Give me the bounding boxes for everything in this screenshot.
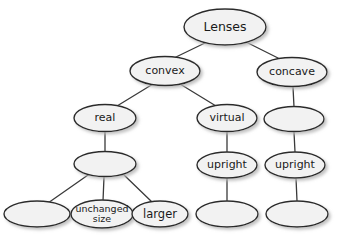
node-concave[interactable]: concave (257, 58, 327, 87)
node-real-blank-1[interactable] (74, 152, 136, 177)
edge-upright-concave-to-concave-blank-2 (296, 178, 297, 201)
node-layer: Lensesconvexconcaverealvirtualuprightupr… (4, 9, 328, 228)
edge-lenses-to-concave (246, 42, 278, 58)
lenses-concept-map: Lensesconvexconcaverealvirtualuprightupr… (0, 0, 340, 237)
edge-convex-to-virtual (180, 84, 216, 106)
node-ellipse (196, 201, 258, 227)
node-concave-blank-1[interactable] (264, 107, 324, 132)
diagram-canvas: Lensesconvexconcaverealvirtualuprightupr… (0, 0, 340, 237)
node-ellipse (4, 201, 70, 227)
node-lenses[interactable]: Lenses (184, 9, 266, 45)
node-label-lenses: Lenses (203, 19, 246, 34)
node-virtual[interactable]: virtual (197, 105, 257, 132)
node-label-real: real (95, 111, 116, 124)
node-real[interactable]: real (74, 105, 136, 132)
node-label-convex: convex (145, 64, 185, 77)
node-label-larger: larger (143, 207, 177, 221)
edge-concave-blank-1-to-upright-concave (294, 132, 295, 152)
edge-real-blank-1-to-unchanged-size (103, 177, 104, 201)
node-convex[interactable]: convex (130, 57, 200, 86)
node-label-upright-virtual: upright (207, 158, 247, 171)
node-ellipse (264, 107, 324, 132)
node-label-virtual: virtual (209, 111, 244, 124)
node-label-concave: concave (269, 65, 315, 78)
node-larger[interactable]: larger (132, 201, 188, 227)
node-unchanged-size[interactable]: unchangedsize (71, 200, 133, 228)
edge-concave-to-concave-blank-1 (293, 87, 294, 107)
node-real-blank-2[interactable] (4, 201, 70, 227)
node-upright-concave[interactable]: upright (265, 152, 325, 178)
node-concave-blank-2[interactable] (266, 201, 328, 227)
edge-lenses-to-convex (176, 42, 207, 57)
node-label-upright-concave: upright (275, 158, 315, 171)
edge-real-blank-1-to-real-blank-2 (48, 175, 88, 203)
node-virtual-blank[interactable] (196, 201, 258, 227)
node-ellipse (74, 152, 136, 177)
edge-convex-to-real (117, 84, 153, 106)
edge-real-blank-1-to-larger (124, 175, 152, 202)
node-upright-virtual[interactable]: upright (197, 152, 257, 178)
node-ellipse (266, 201, 328, 227)
